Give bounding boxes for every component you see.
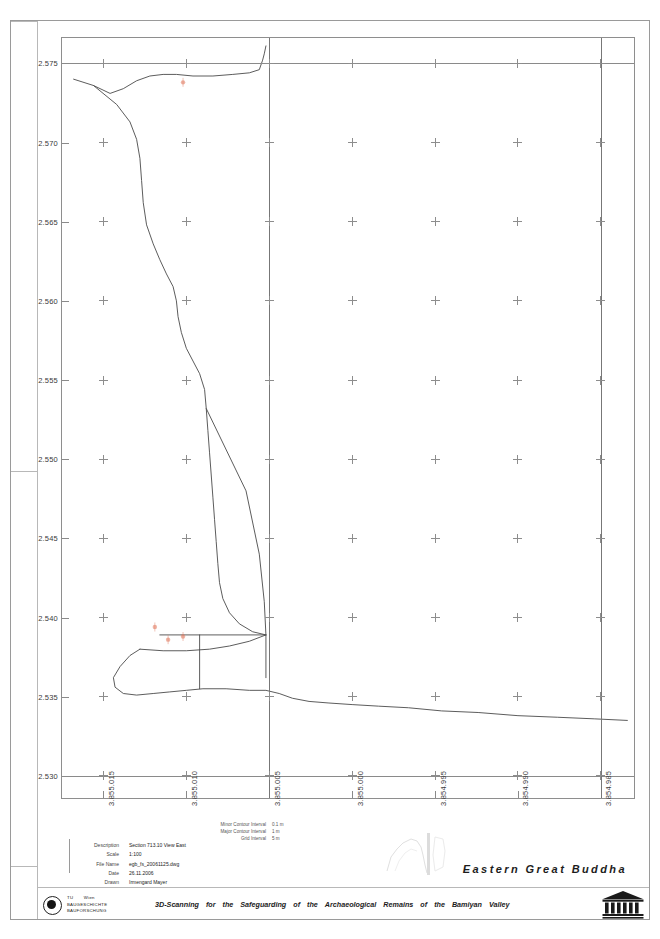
- grid-cross: [348, 59, 357, 68]
- y-tick-label: 2.560: [38, 296, 58, 305]
- y-tick-mark: [62, 538, 69, 539]
- y-tick-label: 2.535: [38, 692, 58, 701]
- section-plot: 2.5752.5702.5652.5602.5552.5502.5452.540…: [61, 37, 635, 799]
- grid-cross: [265, 613, 274, 622]
- contour-legend-value: 0.1 m: [272, 821, 312, 828]
- title-block-row: Date26.11.2006: [71, 869, 331, 878]
- y-tick-label: 2.545: [38, 534, 58, 543]
- y-tick-mark: [62, 459, 69, 460]
- grid-cross: [596, 771, 605, 780]
- grid-cross: [348, 455, 357, 464]
- grid-cross: [265, 296, 274, 305]
- grid-cross: [99, 534, 108, 543]
- grid-cross: [182, 534, 191, 543]
- contour-legend-row: Minor Contour Interval0.1 m: [116, 821, 356, 828]
- y-tick-label: 2.550: [38, 455, 58, 464]
- margin-rule: [37, 21, 38, 919]
- y-tick-label: 2.565: [38, 217, 58, 226]
- y-tick-mark: [62, 143, 69, 144]
- grid-cross: [99, 771, 108, 780]
- x-tick-label: 3.854.990: [521, 771, 530, 806]
- grid-cross: [182, 376, 191, 385]
- y-tick-label: 2.540: [38, 613, 58, 622]
- tu-label: TU: [67, 895, 73, 900]
- grid-cross: [513, 376, 522, 385]
- profile-line-west-cliff-edge: [94, 86, 266, 635]
- grid-cross: [265, 534, 274, 543]
- bauforschung-label: BAUFORSCHUNG: [67, 908, 107, 914]
- grid-cross: [596, 376, 605, 385]
- grid-cross: [596, 296, 605, 305]
- profile-line-niche-back-wall: [206, 409, 266, 678]
- grid-cross: [348, 613, 357, 622]
- grid-cross: [431, 296, 440, 305]
- key-location-diagram: [373, 827, 459, 879]
- footer-word: 3D-Scanning: [155, 900, 199, 909]
- title-block-row: Scale1:100: [71, 850, 331, 859]
- margin-tick-mid: [11, 471, 37, 472]
- grid-cross: [431, 771, 440, 780]
- grid-cross: [431, 692, 440, 701]
- grid-cross: [513, 534, 522, 543]
- footer-word: for: [206, 900, 216, 909]
- profile-line-valley-floor-profile: [113, 649, 627, 720]
- x-tick-label: 3.855.000: [356, 771, 365, 806]
- x-tick-mark: [103, 791, 104, 798]
- y-tick-mark: [62, 380, 69, 381]
- grid-cross: [513, 296, 522, 305]
- grid-cross: [99, 296, 108, 305]
- grid-cross: [99, 613, 108, 622]
- y-tick-label: 2.575: [38, 59, 58, 68]
- footer-word: the: [434, 900, 445, 909]
- title-block-label: Drawn: [71, 878, 129, 887]
- grid-cross: [265, 455, 274, 464]
- survey-mark-lower-a: [153, 623, 157, 632]
- grid-cross: [182, 138, 191, 147]
- grid-cross: [596, 217, 605, 226]
- grid-cross: [99, 138, 108, 147]
- y-tick-mark: [62, 697, 69, 698]
- title-block-value: Irmengard Mayer: [129, 878, 331, 887]
- grid-cross: [431, 534, 440, 543]
- x-tick-label: 3.854.995: [439, 771, 448, 806]
- footer-word: Valley: [489, 900, 510, 909]
- title-block-label: Scale: [71, 850, 129, 859]
- wien-label: Wien: [84, 895, 95, 900]
- tu-wien-logo-text: TU Wien BAUGESCHICHTE BAUFORSCHUNG: [67, 895, 107, 914]
- grid-cross: [182, 296, 191, 305]
- grid-column-rule: [269, 38, 270, 798]
- grid-cross: [182, 59, 191, 68]
- grid-cross: [431, 613, 440, 622]
- grid-cross: [265, 138, 274, 147]
- grid-cross: [596, 138, 605, 147]
- x-tick-label: 3.855.015: [107, 771, 116, 806]
- title-block-label: Date: [71, 869, 129, 878]
- drawing-sheet: 2.5752.5702.5652.5602.5552.5502.5452.540…: [10, 20, 650, 920]
- footer-word: Remains: [383, 900, 413, 909]
- grid-cross: [348, 217, 357, 226]
- grid-cross: [348, 296, 357, 305]
- grid-cross: [513, 455, 522, 464]
- grid-cross: [265, 217, 274, 226]
- grid-cross: [348, 138, 357, 147]
- title-block-label: Description: [71, 841, 129, 850]
- contour-legend-row: Major Contour Interval1 m: [116, 828, 356, 835]
- margin-tick-top: [11, 21, 37, 22]
- y-tick-mark: [62, 618, 69, 619]
- y-tick-mark: [62, 222, 69, 223]
- grid-cross: [513, 217, 522, 226]
- grid-cross: [182, 217, 191, 226]
- grid-column-rule: [601, 38, 602, 798]
- footer-word: the: [307, 900, 318, 909]
- grid-cross: [431, 59, 440, 68]
- profile-line-rock-face-profile: [74, 46, 266, 94]
- title-block-rule: [69, 839, 70, 873]
- y-tick-label: 2.570: [38, 138, 58, 147]
- grid-cross: [596, 455, 605, 464]
- grid-cross: [348, 771, 357, 780]
- grid-cross: [348, 376, 357, 385]
- x-tick-label: 3.855.010: [190, 771, 199, 806]
- grid-cross: [513, 59, 522, 68]
- eye-icon: [43, 896, 62, 915]
- grid-cross: [596, 613, 605, 622]
